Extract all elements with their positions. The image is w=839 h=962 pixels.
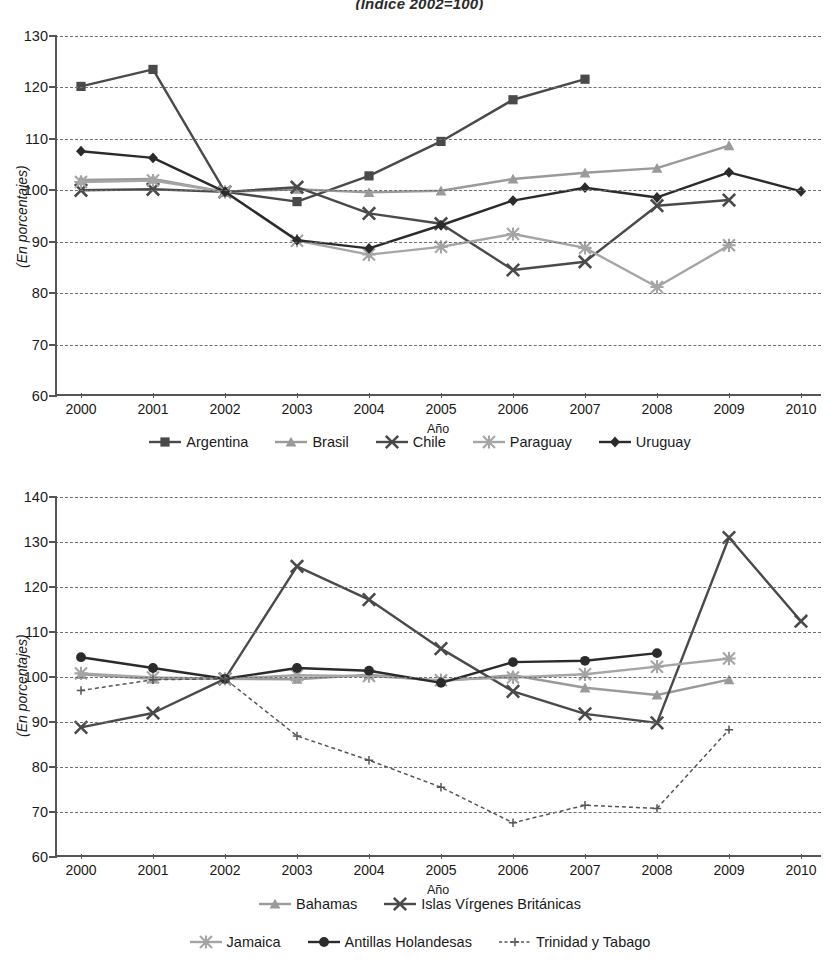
data-point-diamond [724,167,734,178]
x-axis-tick [585,854,586,859]
legend-marker-circle [307,934,341,950]
series-trinidad-y-tabago [77,675,733,827]
y-axis-tick-label: 70 [32,337,48,353]
data-point-plus [509,819,517,827]
legend-marker-x [375,434,409,450]
legend-marker-triangle [274,434,308,450]
series-layer-1 [55,36,821,396]
data-point-asterisk [506,227,519,240]
y-axis-tick [49,586,57,588]
series-uruguay [76,146,806,254]
data-point-asterisk [74,667,87,680]
legend-item-label: Uruguay [636,434,691,450]
gridline [55,497,821,498]
x-axis-tick [225,393,226,398]
gridline [55,139,821,140]
legend-item-paraguay[interactable]: Paraguay [472,434,572,450]
x-axis-tick-label: 2001 [137,862,168,878]
y-axis-tick-label: 80 [32,759,48,775]
data-point-asterisk [722,652,735,665]
legend-item-uruguay[interactable]: Uruguay [598,434,691,450]
gridline [55,677,821,678]
x-axis-tick-label: 2007 [569,862,600,878]
x-axis-tick-label: 2008 [641,862,672,878]
x-axis-tick [657,393,658,398]
legend-marker-x [383,896,417,912]
x-axis-tick [441,854,442,859]
gridline [55,345,821,346]
legend-item-label: Antillas Holandesas [345,934,472,950]
y-axis-tick [49,241,57,243]
legend-item-label: Islas Vírgenes Británicas [421,896,581,912]
x-axis-tick [657,854,658,859]
x-axis-tick-label: 2005 [425,401,456,417]
data-point-plus [581,801,589,809]
y-axis-tick [49,541,57,543]
x-axis-tick [369,854,370,859]
x-axis-tick-label: 2006 [497,862,528,878]
x-axis-tick [585,393,586,398]
data-point-square [161,437,170,446]
y-axis-tick [49,395,57,397]
legend-marker-square [148,434,182,450]
legend-item-antillas-holandesas[interactable]: Antillas Holandesas [307,934,472,950]
legend-item-chile[interactable]: Chile [375,434,446,450]
y-axis-tick-label: 130 [24,534,48,550]
legend-1: ArgentinaBrasilChileParaguayUruguay [0,434,839,450]
gridline [55,722,821,723]
legend-item-islas-v-rgenes-brit-nicas[interactable]: Islas Vírgenes Británicas [383,896,581,912]
legend-item-trinidad-y-tabago[interactable]: Trinidad y Tabago [498,934,650,950]
x-axis-tick [153,854,154,859]
x-axis-tick-label: 2003 [281,401,312,417]
legend-item-brasil[interactable]: Brasil [274,434,348,450]
legend-item-label: Jamaica [227,934,281,950]
y-axis-tick [49,344,57,346]
data-point-diamond [508,195,518,206]
y-axis-tick-label: 110 [25,131,48,147]
x-axis-tick [81,854,82,859]
legend-marker-plus [498,934,532,950]
data-point-circle [319,937,329,947]
y-axis-tick [49,676,57,678]
series-bahamas [76,669,735,700]
data-point-square [76,82,85,91]
data-point-square [580,75,589,84]
y-axis-tick-label: 140 [24,489,48,505]
gridline [55,632,821,633]
data-point-asterisk [482,435,495,448]
x-axis-tick [369,393,370,398]
data-point-diamond [796,186,806,197]
legend-item-bahamas[interactable]: Bahamas [258,896,357,912]
data-point-plus [77,686,85,694]
y-axis-tick [49,86,57,88]
data-point-asterisk [578,241,591,254]
legend-item-label: Argentina [186,434,248,450]
y-axis-tick [49,189,57,191]
legend-item-label: Bahamas [296,896,357,912]
x-axis-tick-label: 2010 [785,862,816,878]
chart-panel-1: Año 607080901001101201302000200120022003… [0,18,839,458]
y-axis-tick [49,292,57,294]
x-axis-tick-label: 2005 [425,862,456,878]
data-point-circle [364,666,374,676]
data-point-asterisk [650,660,663,673]
legend-marker-triangle [258,896,292,912]
y-axis-tick [49,631,57,633]
data-point-circle [76,652,86,662]
data-point-square [148,65,157,74]
y-axis-tick-label: 80 [32,285,48,301]
data-point-plus [365,756,373,764]
data-point-asterisk [722,239,735,252]
legend-2: BahamasIslas Vírgenes BritánicasJamaicaA… [0,896,839,950]
legend-item-argentina[interactable]: Argentina [148,434,248,450]
data-point-x [291,560,303,572]
y-axis-tick [49,496,57,498]
data-point-asterisk [578,668,591,681]
x-axis-tick-label: 2009 [713,862,744,878]
y-axis-tick-label: 60 [32,849,48,865]
legend-item-jamaica[interactable]: Jamaica [189,934,281,950]
y-axis-tick-label: 70 [32,804,48,820]
data-point-x [435,642,447,654]
x-axis-tick [153,393,154,398]
data-point-triangle [724,140,735,150]
